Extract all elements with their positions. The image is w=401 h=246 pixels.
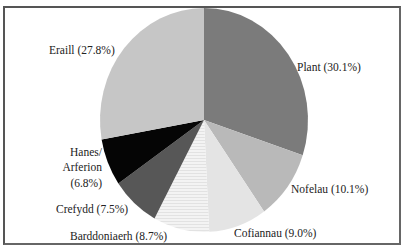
- label-barddoniaerh: Barddoniaerh (8.7%): [70, 230, 167, 243]
- label-hanes-line2: Arferion: [62, 161, 102, 173]
- pie-chart: Plant (30.1%) Nofelau (10.1%) Cofiannau …: [0, 0, 401, 246]
- label-crefydd: Crefydd (7.5%): [56, 203, 128, 216]
- label-hanes-line1: Hanes/: [70, 146, 103, 158]
- label-cofiannau: Cofiannau (9.0%): [234, 227, 317, 240]
- label-nofelau: Nofelau (10.1%): [291, 183, 368, 196]
- pie-slice-eraill: [100, 8, 204, 140]
- label-eraill: Eraill (27.8%): [49, 44, 115, 57]
- label-hanes-line3: (6.8%): [70, 177, 102, 190]
- label-plant: Plant (30.1%): [297, 61, 361, 74]
